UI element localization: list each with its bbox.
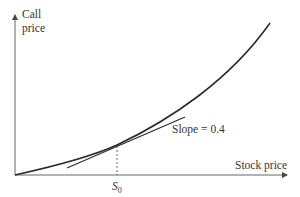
y-axis-label-line1: Call [22, 8, 41, 21]
s0-tick-label: S0 [112, 180, 122, 197]
tangent-line [67, 117, 185, 168]
y-axis-label-line2: price [22, 22, 45, 35]
slope-annotation: Slope = 0.4 [172, 123, 225, 136]
x-axis-label: Stock price [235, 159, 287, 172]
call-price-curve [15, 23, 270, 175]
